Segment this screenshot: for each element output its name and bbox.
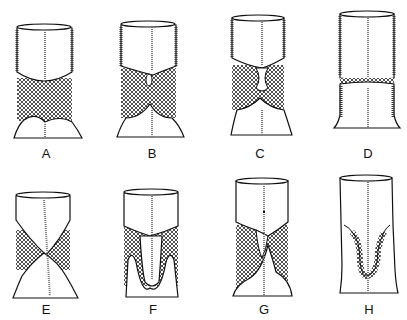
- diagram-canvas: [0, 0, 407, 320]
- panel-e: [13, 192, 78, 298]
- panel-g: [233, 178, 292, 296]
- panel-label-h: H: [364, 302, 373, 317]
- panel-b: [117, 21, 184, 137]
- panel-d: [334, 11, 400, 128]
- panel-c: [231, 15, 292, 135]
- panel-label-e: E: [42, 302, 51, 317]
- panel-label-a: A: [42, 146, 51, 161]
- panel-label-b: B: [148, 146, 157, 161]
- panel-label-g: G: [259, 302, 269, 317]
- panel-a: [14, 24, 82, 138]
- panel-f: [124, 189, 178, 297]
- panel-label-d: D: [363, 146, 372, 161]
- panel-label-c: C: [255, 146, 264, 161]
- panel-label-f: F: [149, 302, 157, 317]
- panel-h: [340, 175, 398, 293]
